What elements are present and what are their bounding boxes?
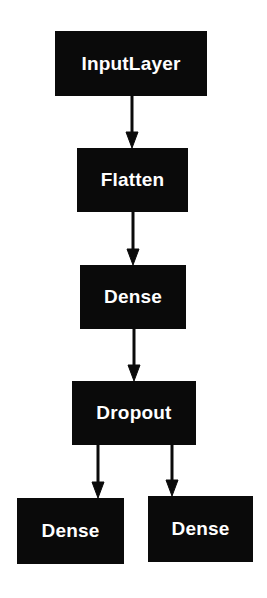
node-inputlayer: InputLayer xyxy=(55,31,207,96)
arrowhead-icon xyxy=(128,365,140,381)
node-label: InputLayer xyxy=(81,53,180,75)
node-dense-right: Dense xyxy=(148,496,253,562)
arrowhead-icon xyxy=(126,132,138,148)
node-label: Dense xyxy=(104,286,162,308)
node-label: Dense xyxy=(41,520,99,542)
node-dropout: Dropout xyxy=(72,381,196,445)
node-dense-left: Dense xyxy=(17,498,124,564)
arrowhead-icon xyxy=(92,482,104,498)
node-label: Flatten xyxy=(101,169,165,191)
arrowhead-icon xyxy=(166,480,178,496)
node-label: Dropout xyxy=(96,402,171,424)
node-dense: Dense xyxy=(80,265,186,329)
node-label: Dense xyxy=(171,518,229,540)
arrowhead-icon xyxy=(127,249,139,265)
node-flatten: Flatten xyxy=(77,148,188,212)
